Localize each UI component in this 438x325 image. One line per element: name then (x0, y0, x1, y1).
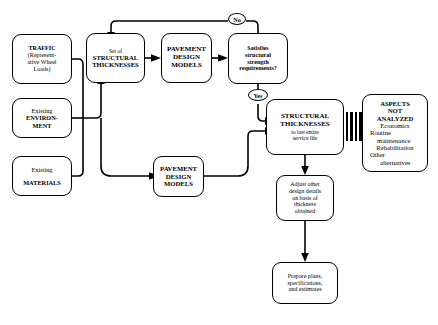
node-adjust-design-details[interactable]: Adjust other design details on basis of … (276, 175, 334, 221)
wire-models-bottom-to-final (204, 131, 266, 176)
aspects-item-3: maintenance (377, 137, 410, 144)
decision-line-4: requirements? (239, 65, 277, 72)
materials-line-1: Existing (32, 166, 53, 173)
label-no-text: No (233, 16, 241, 23)
traffic-line-1: TRAFFIC (28, 45, 55, 52)
wire-bus-to-models-bottom (101, 118, 149, 176)
barrier-bar-2 (350, 112, 352, 141)
aspects-item-1: Economics (380, 122, 409, 129)
node-final-structural-thicknesses[interactable]: STRUCTURAL THICKNESSES to last entire se… (266, 99, 344, 155)
models-bottom-line-2: DESIGN (166, 173, 192, 181)
environment-line-2: ENVIRON- (26, 114, 58, 121)
adjust-line-5: obtained (295, 208, 315, 215)
arrowhead-into-decision (218, 54, 228, 62)
traffic-line-3: ative Wheel (27, 59, 56, 66)
node-pavement-design-models-top[interactable]: PAVEMENT DESIGN MODELS (161, 33, 212, 83)
barrier-bar-4 (359, 112, 361, 141)
environment-line-3: MENT (33, 122, 52, 129)
barrier-bars-icon (346, 112, 362, 141)
label-yes-text: Yes (254, 92, 263, 99)
aspects-item-6: alternatives (380, 159, 410, 166)
node-aspects-not-analyzed[interactable]: ASPECTS NOT ANALYZED Economics Routine m… (362, 94, 428, 172)
decision-line-3: strength (247, 59, 269, 66)
decision-line-2: structural (245, 52, 271, 59)
traffic-line-2: (Represent- (28, 52, 56, 59)
adjust-line-1: Adjust other (290, 181, 319, 188)
wire-materials-to-bus (72, 118, 83, 176)
wire-decision-to-no (246, 21, 258, 33)
models-top-line-3: MODELS (171, 62, 202, 70)
materials-line-2: MATERIALS (23, 179, 61, 186)
node-prepare-plans[interactable]: Prepare plans, specifications, and estim… (272, 262, 338, 304)
prepare-line-2: specifications, (287, 280, 322, 287)
environment-line-1: Existing (32, 107, 53, 114)
arrowhead-into-prepare (301, 253, 309, 262)
final-thickness-line-2: THICKNESSES (280, 121, 329, 129)
aspects-item-5: Other (370, 151, 385, 158)
flowchart-canvas: TRAFFIC (Represent- ative Wheel Loads) E… (0, 0, 438, 325)
set-thicknesses-line-3: THICKNESSES (92, 61, 139, 68)
label-no: No (228, 13, 246, 25)
label-yes: Yes (248, 89, 268, 101)
prepare-line-1: Prepare plans, (288, 273, 323, 280)
node-set-structural-thicknesses[interactable]: Set of STRUCTURAL THICKNESSES (86, 33, 145, 83)
set-thicknesses-line-2: STRUCTURAL (93, 54, 138, 61)
barrier-bar-3 (355, 112, 357, 141)
adjust-line-3: on basis of (292, 195, 318, 202)
wire-no-to-set-thicknesses (111, 21, 228, 32)
arrowhead-into-adjust (301, 166, 309, 175)
prepare-line-3: and estimates (289, 286, 322, 293)
adjust-line-4: thickness (294, 201, 316, 208)
aspects-heading-1: ASPECTS (380, 100, 410, 107)
adjust-line-2: design details (289, 188, 321, 195)
aspects-item-4: Rehabilitation (376, 144, 413, 151)
models-bottom-line-1: PAVEMENT (160, 165, 197, 173)
traffic-line-4: Loads) (34, 66, 51, 73)
wire-yes-to-final (258, 104, 266, 121)
wire-traffic-to-bus (72, 59, 83, 118)
node-materials[interactable]: Existing MATERIALS (12, 156, 72, 196)
barrier-bar-1 (346, 112, 348, 141)
aspects-heading-2: NOT (388, 107, 402, 114)
arrowhead-into-models-top (151, 54, 161, 62)
final-thickness-sub-2: service life (293, 135, 318, 141)
aspects-heading-3: ANALYZED (377, 115, 413, 122)
node-pavement-design-models-bottom[interactable]: PAVEMENT DESIGN MODELS (153, 156, 204, 197)
node-traffic[interactable]: TRAFFIC (Represent- ative Wheel Loads) (12, 34, 72, 84)
decision-line-1: Satisfies (247, 45, 268, 52)
models-bottom-line-3: MODELS (164, 180, 193, 188)
aspects-item-2: Routine (370, 129, 391, 136)
node-decision-satisfies-strength[interactable]: Satisfies structural strength requiremen… (228, 33, 288, 84)
wire-bus-up-branch (83, 96, 101, 118)
node-environment[interactable]: Existing ENVIRON- MENT (12, 98, 72, 138)
